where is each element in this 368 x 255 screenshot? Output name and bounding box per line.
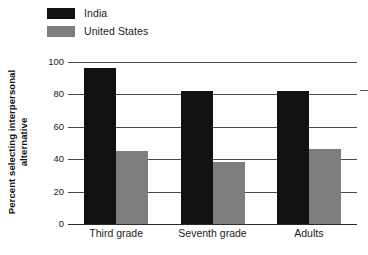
y-tick-label-40: 40 <box>53 154 64 164</box>
bar-india-seventh-grade <box>181 91 213 224</box>
y-axis-title-line-2: alternative <box>17 118 28 167</box>
bar-united-states-adults <box>309 149 341 224</box>
bar-chart-figure: India United States Percent selecting in… <box>0 0 368 255</box>
legend-label-united-states: United States <box>84 26 148 37</box>
gridline-0: 0 <box>68 224 357 225</box>
legend-item-india: India <box>47 6 197 21</box>
legend-item-united-states: United States <box>47 24 197 39</box>
bar-united-states-seventh-grade <box>213 162 245 224</box>
chart-legend: India United States <box>47 6 197 42</box>
x-tick-label-adults: Adults <box>294 227 323 239</box>
x-tick-label-third-grade: Third grade <box>89 227 143 239</box>
legend-swatch-united-states <box>47 26 75 37</box>
legend-label-india: India <box>84 8 107 19</box>
y-axis-title-line-1: Percent selecting interpersonal <box>6 70 17 214</box>
y-tick-label-80: 80 <box>53 89 64 99</box>
y-axis-title: Percent selecting interpersonal alternat… <box>0 58 34 226</box>
y-tick-label-60: 60 <box>53 122 64 132</box>
x-tick-label-seventh-grade: Seventh grade <box>178 227 246 239</box>
y-tick-label-0: 0 <box>59 219 64 229</box>
y-tick-label-100: 100 <box>48 57 64 67</box>
scan-artifact-dash <box>360 90 368 91</box>
bar-series-container <box>68 62 357 224</box>
plot-area: 020406080100 <box>68 62 357 224</box>
bar-india-adults <box>277 91 309 224</box>
bar-india-third-grade <box>84 68 116 224</box>
legend-swatch-india <box>47 8 75 19</box>
bar-united-states-third-grade <box>116 151 148 224</box>
x-axis-labels: Third gradeSeventh gradeAdults <box>68 227 357 243</box>
y-tick-label-20: 20 <box>53 187 64 197</box>
